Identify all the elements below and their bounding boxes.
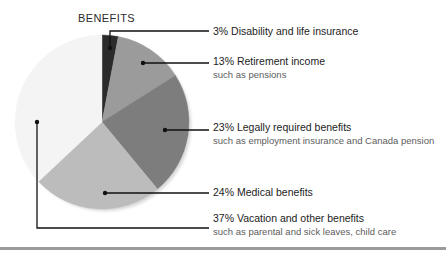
callout-disability: 3% Disability and life insurance xyxy=(213,25,358,38)
bottom-divider xyxy=(0,247,446,250)
callout-retirement: 13% Retirement income such as pensions xyxy=(213,55,325,81)
callout-sub: such as parental and sick leaves, child … xyxy=(213,226,396,238)
callout-sub: such as employment insurance and Canada … xyxy=(213,135,434,147)
callout-medical: 24% Medical benefits xyxy=(213,186,313,199)
callout-sub: such as pensions xyxy=(213,69,325,81)
callout-main: 24% Medical benefits xyxy=(213,186,313,199)
callout-vacation: 37% Vacation and other benefits such as … xyxy=(213,212,396,238)
chart-title: BENEFITS xyxy=(78,12,135,24)
chart-page: BENEFITS 3% xyxy=(0,0,446,257)
pie-chart xyxy=(14,34,190,210)
pie-slices xyxy=(14,34,190,210)
callout-main: 23% Legally required benefits xyxy=(213,121,434,134)
callout-main: 3% Disability and life insurance xyxy=(213,25,358,38)
callout-legally-required: 23% Legally required benefits such as em… xyxy=(213,121,434,147)
callout-main: 37% Vacation and other benefits xyxy=(213,212,396,225)
callout-main: 13% Retirement income xyxy=(213,55,325,68)
